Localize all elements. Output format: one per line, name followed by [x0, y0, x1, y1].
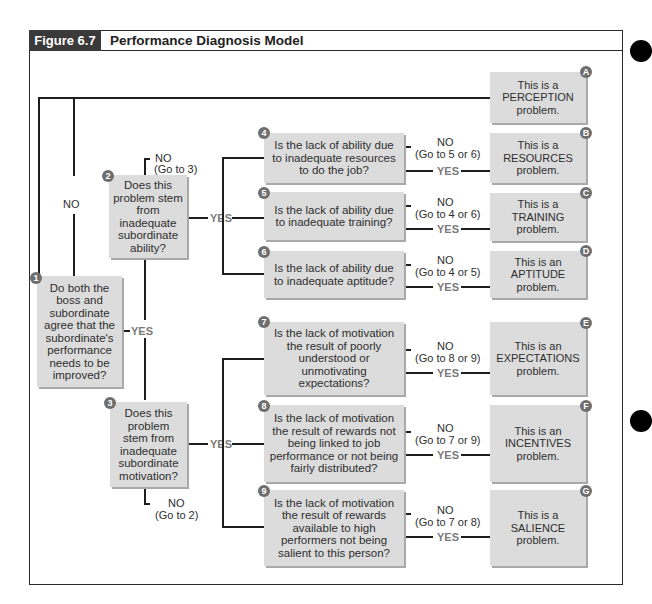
result-text-line: This is a — [518, 198, 559, 211]
yes-label-q8: YES — [437, 449, 459, 461]
result-text-line: This is an — [514, 425, 561, 438]
yes-label-q7: YES — [437, 367, 459, 379]
result-type: INCENTIVES — [505, 437, 571, 450]
connector-line — [461, 536, 490, 538]
connector-line — [405, 286, 433, 288]
result-text-line: This is an — [514, 340, 561, 353]
figure-label: Figure 6.7 — [29, 30, 101, 51]
result-box-aptitude: This is an APTITUDE problem. — [490, 251, 586, 298]
letter-badge-b: B — [580, 127, 592, 139]
connector-line — [461, 170, 490, 172]
connector-line — [38, 97, 490, 99]
letter-badge-a: A — [580, 66, 592, 78]
question-box-6: Is the lack of ability due to inadequate… — [264, 251, 404, 298]
connector-line — [461, 286, 490, 288]
number-badge-4: 4 — [258, 127, 270, 139]
connector-line — [405, 431, 411, 433]
no-label-q5: NO — [437, 196, 454, 208]
number-badge-3: 3 — [104, 397, 116, 409]
question-text-7: Is the lack of motivation the result of … — [268, 327, 400, 390]
result-box-salience: This is a SALIENCE problem. — [490, 490, 586, 566]
result-text-line: problem. — [517, 281, 560, 294]
result-type: PERCEPTION — [502, 91, 574, 104]
result-text-line: This is a — [518, 79, 559, 92]
goto-label-q8: (Go to 7 or 9) — [415, 434, 480, 446]
result-type: RESOURCES — [503, 152, 573, 165]
result-text-line: This is a — [518, 139, 559, 152]
no-label-q1: NO — [63, 198, 80, 210]
question-box-8: Is the lack of motivation the result of … — [264, 405, 404, 482]
connector-line — [73, 214, 75, 276]
letter-badge-d: D — [580, 245, 592, 257]
connector-line — [461, 454, 490, 456]
result-box-incentives: This is an INCENTIVES problem. — [490, 405, 586, 482]
letter-badge-e: E — [580, 317, 592, 329]
number-badge-7: 7 — [258, 316, 270, 328]
number-badge-8: 8 — [258, 400, 270, 412]
number-badge-9: 9 — [258, 485, 270, 497]
connector-line — [222, 273, 264, 275]
letter-badge-f: F — [580, 400, 592, 412]
number-badge-2: 2 — [102, 170, 114, 182]
number-badge-1: 1 — [30, 272, 42, 284]
goto-label-q4: (Go to 5 or 6) — [415, 148, 480, 160]
connector-line — [144, 158, 146, 175]
goto-label-q3: (Go to 2) — [155, 509, 198, 521]
goto-label-q5: (Go to 4 or 6) — [415, 208, 480, 220]
result-box-training: This is a TRAINING problem. — [490, 193, 586, 241]
result-text-line: problem. — [517, 104, 560, 117]
connector-line — [222, 358, 264, 360]
connector-line — [405, 536, 433, 538]
result-box-expectations: This is an EXPECTATIONS problem. — [490, 322, 586, 395]
connector-line — [405, 170, 433, 172]
question-text-8: Is the lack of motivation the result of … — [268, 412, 400, 475]
connector-line — [405, 264, 411, 266]
goto-label-q7: (Go to 8 or 9) — [415, 352, 480, 364]
result-text-line: problem. — [517, 450, 560, 463]
question-box-1: Do both the boss and subordinate agree t… — [37, 276, 122, 387]
connector-line — [144, 338, 146, 400]
no-label-q3: NO — [168, 497, 185, 509]
goto-label-q9: (Go to 7 or 8) — [415, 516, 480, 528]
connector-line — [144, 488, 146, 504]
yes-label-q6: YES — [437, 281, 459, 293]
result-type: TRAINING — [512, 211, 565, 224]
yes-label-q4: YES — [437, 165, 459, 177]
question-text-2: Does this problem stem from inadequate s… — [113, 179, 183, 254]
question-text-9: Is the lack of motivation the result of … — [268, 497, 400, 560]
binder-hole-bottom — [630, 410, 652, 432]
connector-line — [405, 349, 411, 351]
question-text-1: Do both the boss and subordinate agree t… — [41, 282, 118, 382]
connector-line — [144, 158, 150, 160]
question-text-4: Is the lack of ability due to inadequate… — [268, 139, 400, 177]
result-type: APTITUDE — [511, 268, 565, 281]
connector-line — [232, 217, 264, 219]
question-text-3: Does this problem stem from inadequate s… — [114, 407, 183, 482]
result-type: EXPECTATIONS — [496, 352, 579, 365]
connector-line — [222, 358, 224, 527]
connector-line — [188, 443, 208, 445]
connector-line — [123, 330, 130, 332]
number-badge-5: 5 — [258, 187, 270, 199]
yes-label-q9: YES — [437, 531, 459, 543]
connector-line — [405, 454, 433, 456]
letter-badge-c: C — [580, 187, 592, 199]
connector-line — [144, 258, 146, 320]
result-text-line: This is a — [518, 509, 559, 522]
goto-label-q6: (Go to 4 or 5) — [415, 266, 480, 278]
result-text-line: This is an — [514, 256, 561, 269]
goto-label-q2: (Go to 3) — [154, 163, 197, 175]
no-label-q8: NO — [437, 422, 454, 434]
connector-line — [405, 228, 433, 230]
result-text-line: problem. — [517, 365, 560, 378]
connector-line — [222, 157, 264, 159]
connector-line — [222, 157, 224, 274]
yes-label-q1: YES — [131, 325, 153, 337]
result-text-line: problem. — [517, 164, 560, 177]
question-box-5: Is the lack of ability due to inadequate… — [264, 192, 404, 240]
question-box-2: Does this problem stem from inadequate s… — [109, 175, 187, 258]
connector-line — [188, 217, 208, 219]
connector-line — [405, 205, 411, 207]
result-type: SALIENCE — [511, 522, 565, 535]
result-box-perception: This is a PERCEPTION problem. — [490, 72, 586, 123]
